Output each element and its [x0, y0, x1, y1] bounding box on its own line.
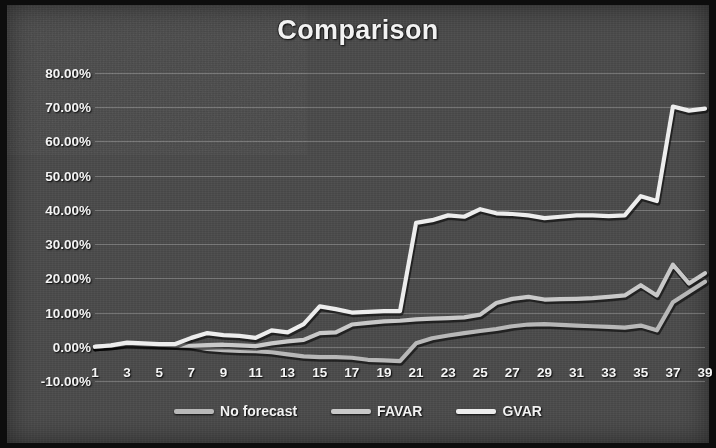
x-axis-tick-label: 19: [376, 365, 391, 380]
x-axis-tick-label: 25: [473, 365, 488, 380]
x-axis-tick-label: 35: [633, 365, 648, 380]
x-axis-tick-label: 39: [697, 365, 712, 380]
x-axis-tick-label: 3: [123, 365, 131, 380]
chart-frame: Comparison 80.00%70.00%60.00%50.00%40.00…: [7, 5, 709, 443]
y-axis-tick-label: 10.00%: [9, 305, 91, 320]
legend-swatch-icon: [331, 409, 371, 414]
x-axis-tick-label: 33: [601, 365, 616, 380]
legend-label: No forecast: [220, 403, 297, 419]
y-axis-tick-label: 50.00%: [9, 168, 91, 183]
x-axis-tick-label: 9: [220, 365, 228, 380]
x-axis-tick-label: 15: [312, 365, 327, 380]
y-axis-tick-label: 0.00%: [9, 339, 91, 354]
legend-item[interactable]: GVAR: [456, 403, 541, 419]
y-axis-tick-label: 70.00%: [9, 100, 91, 115]
series-lines: [95, 73, 705, 381]
x-axis-tick-label: 17: [344, 365, 359, 380]
x-axis-tick-label: 29: [537, 365, 552, 380]
y-axis-tick-label: 80.00%: [9, 66, 91, 81]
y-axis-tick-label: -10.00%: [9, 374, 91, 389]
x-axis-tick-label: 11: [248, 365, 262, 380]
chart-screenshot: Comparison 80.00%70.00%60.00%50.00%40.00…: [0, 0, 716, 448]
legend-label: GVAR: [502, 403, 541, 419]
chart-title: Comparison: [7, 15, 709, 46]
x-axis-tick-label: 27: [505, 365, 520, 380]
legend-item[interactable]: FAVAR: [331, 403, 422, 419]
x-axis-tick-label: 5: [155, 365, 163, 380]
x-axis-labels: 13579111315171921232527293133353739: [95, 365, 705, 385]
x-axis-tick-label: 31: [569, 365, 584, 380]
x-axis-tick-label: 37: [665, 365, 680, 380]
y-axis-tick-label: 20.00%: [9, 271, 91, 286]
legend-label: FAVAR: [377, 403, 422, 419]
legend-swatch-icon: [174, 409, 214, 414]
x-axis-tick-label: 21: [409, 365, 424, 380]
y-axis-tick-label: 30.00%: [9, 237, 91, 252]
x-axis-tick-label: 23: [441, 365, 456, 380]
plot-area: [95, 73, 705, 381]
x-axis-tick-label: 7: [188, 365, 196, 380]
y-axis-labels: 80.00%70.00%60.00%50.00%40.00%30.00%20.0…: [7, 73, 91, 381]
x-axis-tick-label: 13: [280, 365, 295, 380]
x-axis-tick-label: 1: [91, 365, 99, 380]
chart-legend: No forecastFAVARGVAR: [7, 403, 709, 419]
series-line: [95, 107, 705, 347]
y-axis-tick-label: 40.00%: [9, 202, 91, 217]
legend-item[interactable]: No forecast: [174, 403, 297, 419]
y-axis-tick-label: 60.00%: [9, 134, 91, 149]
legend-swatch-icon: [456, 409, 496, 414]
